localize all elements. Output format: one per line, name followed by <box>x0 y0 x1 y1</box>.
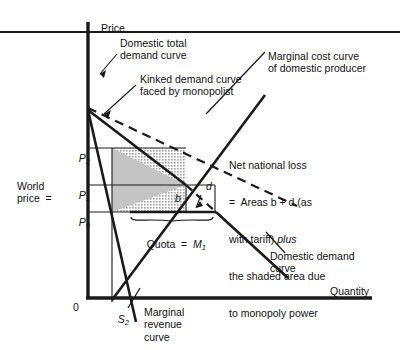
net-loss-line-3-emph: plus <box>277 233 296 245</box>
quota-label-subscript: 1 <box>202 243 206 252</box>
price-tick-p0: P0 <box>67 204 90 244</box>
area-label-d: d <box>206 180 212 192</box>
quota-label: Quota = M1 <box>135 226 206 266</box>
y-axis-label: Price <box>101 22 125 34</box>
net-loss-line-2-text: = Areas b + d (as <box>229 196 312 208</box>
leader-kinked-demand <box>104 85 136 114</box>
price-tick-p2-symbol: P <box>79 152 86 164</box>
world-price-label: World price = <box>17 180 52 205</box>
price-tick-p0-symbol: P <box>79 216 86 228</box>
price-tick-p1-subscript: 1 <box>86 194 90 203</box>
net-loss-line-1: Net national loss <box>229 159 325 171</box>
price-tick-p1-symbol: P <box>79 189 86 201</box>
origin-label: 0 <box>73 301 79 313</box>
quota-label-symbol: M <box>193 238 202 250</box>
leader-domestic-total-demand <box>100 54 117 74</box>
annotation-domestic-total-demand: Domestic total demand curve <box>120 37 187 62</box>
annotation-net-national-loss: Net national loss = Areas b + d (as with… <box>229 134 325 344</box>
quantity-tick-s2-subscript: 2 <box>125 318 129 327</box>
annotation-marginal-revenue: Marginal revenue curve <box>144 306 184 343</box>
x-axis-label: Quantity <box>330 285 369 297</box>
price-tick-p2: P2 <box>67 140 90 180</box>
price-tick-p2-subscript: 2 <box>86 157 90 166</box>
quota-label-prefix: Quota = <box>147 238 193 250</box>
net-loss-line-5: to monopoly power <box>229 307 325 319</box>
area-label-b: b <box>175 192 181 204</box>
quantity-tick-s2: S2 <box>106 301 129 341</box>
net-loss-line-3: with tariff) plus <box>229 233 325 245</box>
net-loss-line-2: = Areas b + d (as <box>229 196 325 208</box>
net-loss-line-3-text: with tariff) <box>229 233 277 245</box>
quantity-tick-s2-symbol: S <box>118 313 125 325</box>
annotation-domestic-demand: Domestic demand curve <box>270 250 355 275</box>
figure-canvas: Price Quantity 0 P2 P1 P0 S2 World price… <box>0 0 400 350</box>
annotation-marginal-cost: Marginal cost curve of domestic producer <box>268 50 366 75</box>
annotation-kinked-demand: Kinked demand curve faced by monopolist <box>140 73 242 98</box>
price-tick-p0-subscript: 0 <box>86 221 90 230</box>
